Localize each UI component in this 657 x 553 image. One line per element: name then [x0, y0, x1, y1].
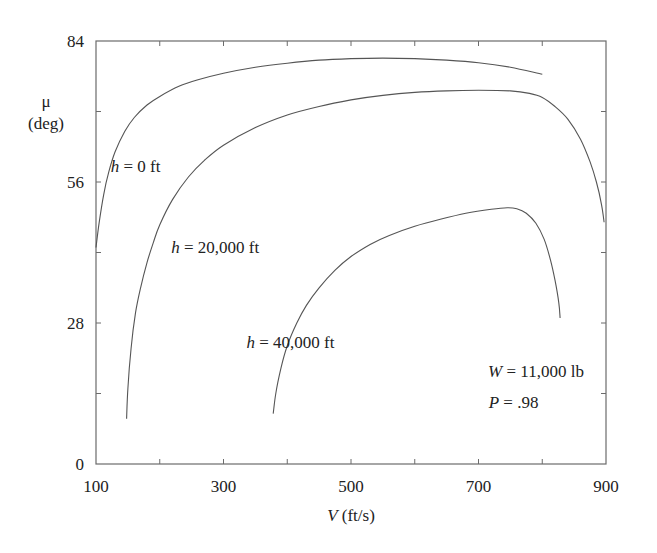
curve-series-2 — [273, 208, 560, 414]
series-label-2: h = 40,000 ft — [246, 333, 334, 352]
y-axis-unit: (deg) — [28, 114, 64, 133]
x-tick-label: 900 — [593, 477, 619, 496]
series-label-0: h = 0 ft — [111, 157, 161, 176]
y-tick-label: 84 — [67, 32, 85, 51]
x-tick-label: 500 — [338, 477, 364, 496]
y-tick-label: 0 — [76, 455, 85, 474]
y-axis-title: μ (deg) — [28, 92, 64, 133]
series-label-1: h = 20,000 ft — [171, 238, 259, 257]
annotation-0: W = 11,000 lb — [488, 362, 584, 381]
y-axis-symbol: μ — [41, 92, 50, 111]
svg-text:V (ft/s): V (ft/s) — [327, 506, 375, 525]
y-tick-label: 56 — [67, 173, 84, 192]
x-axis-unit: (ft/s) — [338, 506, 375, 525]
x-tick-label: 700 — [466, 477, 492, 496]
x-tick-label: 100 — [83, 477, 109, 496]
chart: 1003005007009000285684h = 0 fth = 20,000… — [0, 0, 657, 553]
x-tick-label: 300 — [211, 477, 237, 496]
y-tick-label: 28 — [67, 314, 84, 333]
annotation-1: P = .98 — [488, 393, 539, 412]
x-axis-title: V (ft/s) — [327, 506, 375, 525]
